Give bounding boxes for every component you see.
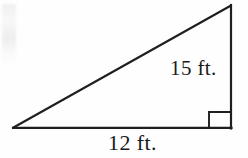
right-angle-square-icon: [209, 112, 231, 128]
dimension-label-horizontal-leg: 12 ft.: [108, 132, 157, 154]
figure-canvas: 15 ft. 12 ft.: [0, 0, 248, 158]
dimension-label-vertical-leg: 15 ft.: [170, 58, 217, 79]
